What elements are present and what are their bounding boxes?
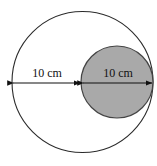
right-dimension-label: 10 cm [103,66,133,80]
circles-diagram-svg: 10 cm 10 cm [0,0,157,166]
left-dimension-label: 10 cm [32,66,62,80]
geometry-figure: 10 cm 10 cm [0,0,157,166]
small-circle-shaded [81,46,153,118]
